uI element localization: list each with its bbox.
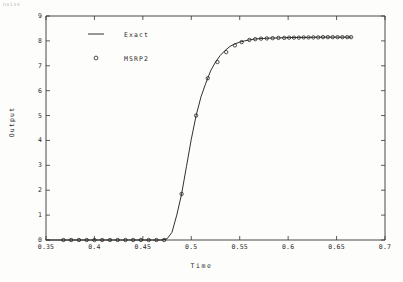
series-exact-line — [46, 37, 351, 240]
series-msrp2-markers — [62, 35, 353, 241]
plot-frame — [46, 16, 385, 240]
legend-label-msrp2: MSRP2 — [124, 55, 149, 63]
legend — [88, 34, 104, 60]
chart-canvas: noise Output Time 0123456789 0.350.40.45… — [0, 0, 403, 282]
plot-area — [0, 0, 403, 282]
legend-label-exact: Exact — [124, 31, 149, 39]
